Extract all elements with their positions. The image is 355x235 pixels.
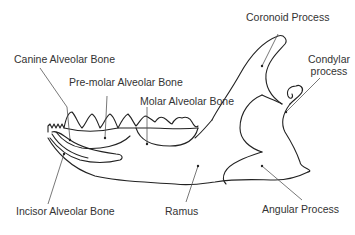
teeth-base-line [64, 128, 198, 131]
label-canine-alveolar-bone: Canine Alveolar Bone [14, 53, 115, 65]
leader-angular [262, 166, 302, 200]
label-coronoid-process: Coronoid Process [246, 11, 329, 23]
label-angular-process: Angular Process [262, 203, 339, 215]
mandible-outline [0, 0, 355, 235]
masseteric-curve [240, 95, 262, 152]
label-condylar-line2: process [304, 65, 354, 77]
canine-alveolar-curve [56, 132, 130, 149]
leader-condylar [286, 78, 320, 112]
label-condylar-process: Condylar process [304, 53, 354, 77]
label-premolar-alveolar-bone: Pre-molar Alveolar Bone [69, 76, 183, 88]
leader-incisor [48, 154, 64, 204]
molar-alveolar-curve [136, 128, 198, 146]
angular-process-outline [283, 104, 310, 172]
leader-canine-2 [67, 107, 70, 140]
coronoid-process-outline [212, 36, 286, 120]
label-ramus: Ramus [165, 205, 198, 217]
label-incisor-alveolar-bone: Incisor Alveolar Bone [16, 205, 115, 217]
mandible-diagram: Coronoid Process Condylar process Canine… [0, 0, 355, 235]
leader-canine [40, 68, 67, 107]
neck-curve [262, 95, 282, 104]
label-molar-alveolar-bone: Molar Alveolar Bone [140, 95, 234, 107]
leader-coronoid [262, 34, 278, 66]
condylar-process-outline [287, 85, 302, 104]
label-condylar-line1: Condylar [304, 53, 354, 65]
